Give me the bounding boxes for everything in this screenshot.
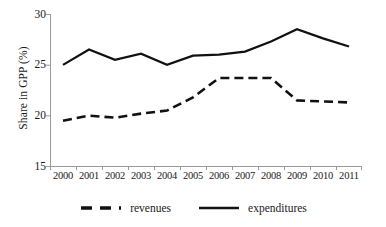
plot-area	[0, 0, 386, 227]
x-tick-label-2003: 2003	[128, 169, 154, 185]
x-tick-label-2011: 2011	[336, 169, 362, 185]
x-axis-tick-labels: 2000 2001 2002 2003 2004 2005 2006 2007 …	[50, 169, 362, 185]
x-tick-label-2008: 2008	[258, 169, 284, 185]
x-tick-label-2004: 2004	[154, 169, 180, 185]
x-tick-label-2005: 2005	[180, 169, 206, 185]
series-line-expenditures	[63, 29, 349, 65]
legend-label-expenditures: expenditures	[248, 202, 307, 214]
legend-item-revenues: revenues	[79, 202, 171, 214]
x-tick-label-2006: 2006	[206, 169, 232, 185]
legend-item-expenditures: expenditures	[197, 202, 307, 214]
x-tick-label-2007: 2007	[232, 169, 258, 185]
chart-legend: revenues expenditures	[0, 196, 386, 220]
solid-line-icon	[197, 203, 241, 213]
line-chart: Share in GPP (%) 30 25 20 15	[0, 0, 386, 227]
x-tick-label-2009: 2009	[284, 169, 310, 185]
dashed-line-icon	[79, 203, 123, 213]
x-tick-label-2002: 2002	[102, 169, 128, 185]
x-tick-label-2001: 2001	[76, 169, 102, 185]
x-tick-label-2000: 2000	[50, 169, 76, 185]
legend-label-revenues: revenues	[130, 202, 171, 214]
series-line-revenues	[63, 78, 349, 121]
y-axis-ticks	[46, 15, 50, 167]
x-tick-label-2010: 2010	[310, 169, 336, 185]
